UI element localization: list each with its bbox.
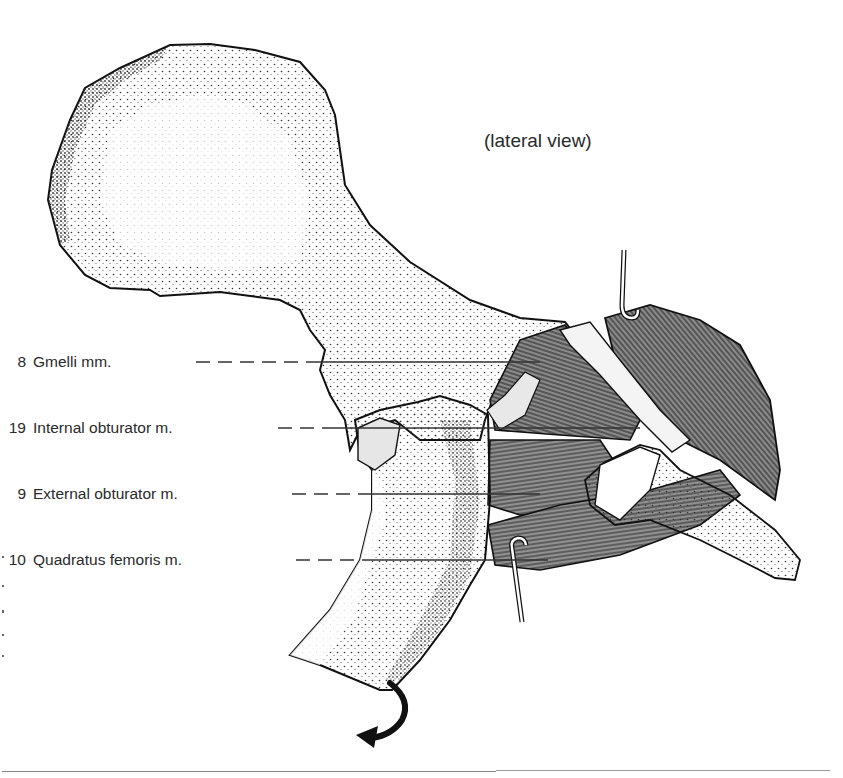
- femur-bone: [290, 396, 490, 690]
- edge-marks: [2, 556, 4, 657]
- label-number: 9: [0, 486, 26, 502]
- label-number: 10: [0, 552, 26, 568]
- view-caption: (lateral view): [484, 130, 592, 152]
- label-quadratus-femoris: 10Quadratus femoris m.: [0, 552, 182, 568]
- label-number: 8: [0, 354, 26, 370]
- label-gemelli: 8Gmelli mm.: [0, 354, 111, 370]
- curved-arrow-icon: [356, 683, 405, 748]
- label-text: Internal obturator m.: [33, 419, 173, 436]
- label-text: Gmelli mm.: [33, 353, 111, 370]
- label-internal-obturator: 19Internal obturator m.: [0, 420, 173, 436]
- bottom-divider: [496, 770, 830, 771]
- label-text: External obturator m.: [33, 485, 178, 502]
- label-external-obturator: 9External obturator m.: [0, 486, 178, 502]
- label-text: Quadratus femoris m.: [33, 551, 182, 568]
- bottom-divider: [2, 771, 496, 772]
- anatomy-illustration: [0, 0, 843, 778]
- label-number: 19: [0, 420, 26, 436]
